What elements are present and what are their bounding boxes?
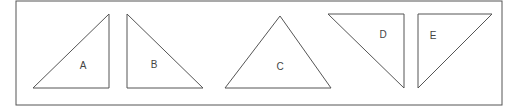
triangle-label: D xyxy=(379,29,386,40)
triangle-label: B xyxy=(151,59,158,70)
triangle-label: C xyxy=(276,61,283,72)
diagram-frame xyxy=(16,1,502,105)
triangle-label: E xyxy=(430,30,437,41)
triangle-label: A xyxy=(80,60,87,71)
triangle-e xyxy=(418,14,492,88)
triangle-a xyxy=(33,14,109,88)
triangle-d xyxy=(328,14,404,88)
triangle-c xyxy=(225,16,331,88)
triangle-b xyxy=(127,14,203,88)
triangles-diagram: ABCDE xyxy=(0,0,514,109)
